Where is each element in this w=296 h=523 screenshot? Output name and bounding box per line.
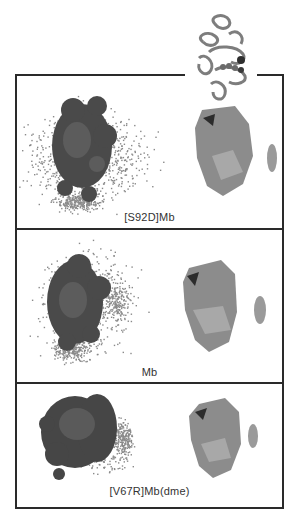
panel-mb: Mb xyxy=(17,230,282,382)
panel-label: [S92D]Mb xyxy=(17,211,282,223)
molecular-surface-icon xyxy=(17,76,282,228)
frame-bottom xyxy=(15,507,284,509)
panel-label: Mb xyxy=(17,366,282,378)
panel-v67r: [V67R]Mb(dme) xyxy=(17,384,282,507)
frame-right xyxy=(282,74,284,509)
panel-label: [V67R]Mb(dme) xyxy=(17,485,282,497)
panel-s92d: [S92D]Mb xyxy=(17,76,282,228)
molecular-surface-icon xyxy=(17,230,282,382)
